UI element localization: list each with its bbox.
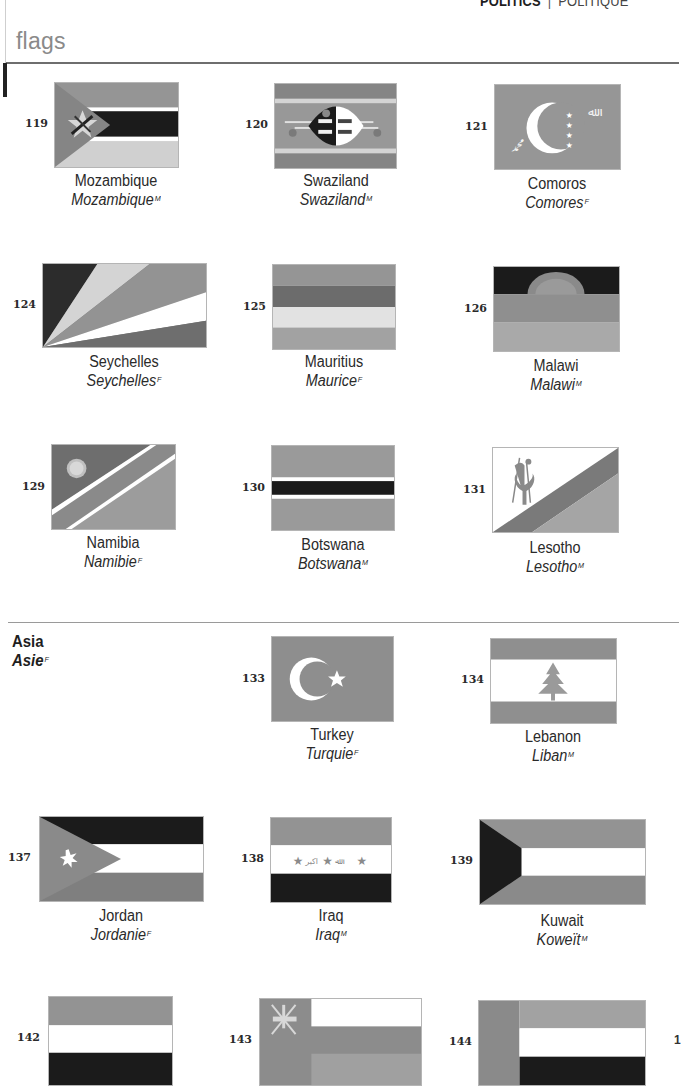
svg-text:★: ★	[357, 854, 368, 868]
flag-caption: Seychelles SeychellesF	[34, 352, 214, 390]
flag-mozambique	[54, 82, 179, 168]
gender-marker: M	[576, 379, 582, 388]
flag-number: 130	[239, 481, 265, 494]
country-name-en: Botswana	[252, 535, 414, 554]
flag-caption: Mozambique MozambiqueM	[26, 171, 206, 209]
lesotho-flag-icon	[493, 448, 618, 532]
country-name-en: Seychelles	[43, 352, 205, 371]
flag-number: 138	[238, 852, 264, 865]
flag-kuwait	[479, 819, 646, 905]
gender-marker: F	[358, 375, 362, 384]
flag-number: 121	[462, 120, 488, 133]
comoros-flag-icon: ★★★★ ﷲ ﷴ	[495, 85, 620, 169]
country-name-fr: MauriceF	[253, 371, 415, 390]
flag-number: 129	[19, 480, 45, 493]
flag-144-icon	[479, 1001, 645, 1085]
flag-144	[478, 1000, 646, 1086]
turkey-flag-icon	[272, 637, 393, 721]
flag-number: 139	[447, 854, 473, 867]
flag-swaziland	[274, 83, 397, 169]
flag-142	[48, 996, 173, 1086]
section-separator: |	[548, 0, 552, 9]
flag-caption: Iraq IraqM	[241, 906, 421, 944]
flag-comoros: ★★★★ ﷲ ﷴ	[494, 84, 621, 170]
svg-text:★: ★	[293, 854, 304, 868]
region-name-en: Asia	[12, 632, 49, 651]
country-name-en: Lebanon	[472, 727, 634, 746]
flag-number: 126	[461, 302, 487, 315]
gender-marker: M	[578, 561, 584, 570]
gender-marker: F	[584, 197, 588, 206]
mauritius-flag-icon	[273, 265, 395, 349]
iraq-flag-icon: ★★★ ﺍﻛﺒﺮ ﷲ	[271, 818, 391, 902]
namibia-flag-icon	[52, 445, 175, 529]
country-name-en: Kuwait	[481, 911, 643, 930]
svg-text:ﺍﻛﺒﺮ: ﺍﻛﺒﺮ	[304, 857, 318, 866]
flag-jordan	[39, 816, 204, 902]
country-name-en: Malawi	[475, 356, 637, 375]
flag-seychelles	[42, 263, 207, 348]
flag-lesotho	[492, 447, 619, 533]
country-name-fr: MalawiM	[475, 375, 637, 394]
flag-number: 133	[239, 672, 265, 685]
gender-marker: M	[568, 750, 574, 759]
section-title-en: POLITICS	[480, 0, 541, 9]
flag-number: 131	[460, 483, 486, 496]
lebanon-flag-icon	[491, 639, 616, 723]
gender-marker: M	[155, 194, 161, 203]
cut-off-flag-number: 1	[674, 1033, 681, 1047]
flag-iraq: ★★★ ﺍﻛﺒﺮ ﷲ	[270, 817, 392, 903]
kuwait-flag-icon	[480, 820, 645, 904]
flag-caption: Turkey TurquieF	[242, 725, 422, 763]
flag-caption: Comoros ComoresF	[467, 174, 647, 212]
svg-text:★: ★	[566, 121, 573, 130]
country-name-fr: TurquieF	[251, 744, 413, 763]
flag-number: 144	[446, 1035, 472, 1048]
flag-number: 137	[5, 851, 31, 864]
country-name-fr: BotswanaM	[252, 554, 414, 573]
section-header: POLITICS|POLITIQUE	[480, 0, 629, 9]
country-name-fr: KoweïtM	[481, 930, 643, 949]
malawi-flag-icon	[494, 267, 619, 351]
flag-number: 124	[10, 298, 36, 311]
flag-number: 119	[22, 117, 48, 130]
section-divider	[8, 622, 679, 623]
flag-caption: Malawi MalawiM	[466, 356, 646, 394]
gender-marker: F	[157, 375, 161, 384]
flag-namibia	[51, 444, 176, 530]
swaziland-flag-icon	[275, 84, 396, 168]
flag-142-icon	[49, 997, 172, 1085]
flag-caption: Jordan JordanieF	[31, 906, 211, 944]
flag-caption: Kuwait KoweïtM	[472, 911, 652, 949]
flag-botswana	[271, 445, 395, 531]
region-name-fr: AsieF	[12, 651, 49, 670]
country-name-fr: LibanM	[472, 746, 634, 765]
thumb-tab-marker	[3, 63, 7, 97]
gender-marker: F	[354, 748, 358, 757]
flag-turkey	[271, 636, 394, 722]
country-name-en: Mozambique	[35, 171, 197, 190]
flag-oman	[259, 998, 422, 1086]
botswana-flag-icon	[272, 446, 394, 530]
title-divider	[6, 62, 679, 64]
flag-caption: Botswana BotswanaM	[243, 535, 423, 573]
country-name-en: Lesotho	[474, 538, 636, 557]
country-name-en: Iraq	[250, 906, 412, 925]
gender-marker: M	[362, 558, 368, 567]
jordan-flag-icon	[40, 817, 203, 901]
country-name-fr: NamibieF	[32, 552, 194, 571]
country-name-en: Comoros	[476, 174, 638, 193]
flag-caption: Lesotho LesothoM	[465, 538, 645, 576]
svg-text:★: ★	[566, 111, 573, 120]
flag-caption: Namibia NamibieF	[23, 533, 203, 571]
oman-flag-icon	[260, 999, 421, 1085]
country-name-en: Turkey	[251, 725, 413, 744]
flag-number: 134	[458, 673, 484, 686]
flag-mauritius	[272, 264, 396, 350]
country-name-en: Swaziland	[255, 171, 417, 190]
country-name-en: Mauritius	[253, 352, 415, 371]
region-heading-asia: Asia AsieF	[12, 632, 49, 670]
country-name-en: Namibia	[32, 533, 194, 552]
svg-text:★: ★	[566, 131, 573, 140]
flag-caption: Mauritius MauriceF	[244, 352, 424, 390]
